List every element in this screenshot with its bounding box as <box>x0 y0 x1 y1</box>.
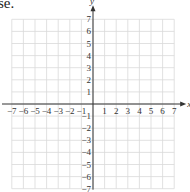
x-tick-label: 5 <box>149 106 154 116</box>
y-tick-label: −6 <box>81 172 91 182</box>
y-tick-label: 1 <box>87 87 92 97</box>
x-tick-label: −3 <box>53 106 63 116</box>
y-tick-label: −4 <box>81 147 91 157</box>
y-tick-label: 5 <box>87 39 92 49</box>
axes <box>2 5 186 189</box>
y-tick-label: −3 <box>81 135 91 145</box>
x-tick-label: −2 <box>65 106 75 116</box>
x-tick-label: −6 <box>19 106 29 116</box>
x-tick-label: 2 <box>114 106 119 116</box>
coordinate-grid: xy−7−6−5−4−3−2−112345677654321−1−2−3−4−5… <box>0 0 190 192</box>
y-tick-label: 4 <box>87 51 92 61</box>
x-tick-label: 4 <box>137 106 142 116</box>
y-tick-label: 7 <box>87 14 92 24</box>
y-tick-label: 3 <box>87 63 92 73</box>
x-axis-label: x <box>186 99 190 109</box>
y-tick-label: −5 <box>81 160 91 170</box>
y-axis-label: y <box>89 0 94 6</box>
y-tick-label: −1 <box>81 111 91 121</box>
x-tick-label: −7 <box>7 106 17 116</box>
x-tick-label: 3 <box>126 106 131 116</box>
y-tick-label: −2 <box>81 123 91 133</box>
y-tick-label: −7 <box>81 184 91 192</box>
x-tick-label: 6 <box>160 106 165 116</box>
x-tick-label: −5 <box>30 106 40 116</box>
x-tick-label: −4 <box>42 106 52 116</box>
y-tick-label: 6 <box>87 26 92 36</box>
x-tick-label: 7 <box>172 106 177 116</box>
x-axis-arrow-icon <box>180 102 186 107</box>
x-tick-label: 1 <box>102 106 107 116</box>
y-tick-label: 2 <box>87 75 92 85</box>
